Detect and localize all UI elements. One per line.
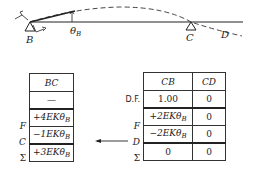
header-cb: CB bbox=[144, 73, 193, 91]
theta-b-label: θB bbox=[70, 26, 81, 39]
row-label-c: C bbox=[16, 137, 26, 147]
cell-c-bc: −1EKθB bbox=[30, 127, 74, 145]
row-label-sum: Σ bbox=[128, 153, 140, 163]
cell-f-cb: +2EKθB bbox=[144, 108, 193, 126]
cell-f-bc: +4EKθB bbox=[30, 109, 74, 127]
header-bc: BC bbox=[30, 74, 74, 92]
distribution-table-c: CB CD 1.00 0 +2EKθB 0 −2EKθB 0 0 0 bbox=[143, 72, 226, 161]
end-d-label: D bbox=[221, 30, 229, 40]
cell-f-cd: 0 bbox=[193, 108, 226, 126]
row-label-d: D bbox=[128, 137, 140, 147]
cell-d-cd: 0 bbox=[193, 126, 226, 144]
distribution-table-bc: BC — +4EKθB −1EKθB +3EKθB bbox=[29, 73, 74, 162]
carryover-arrow-icon bbox=[94, 137, 130, 145]
df-cd: 0 bbox=[193, 91, 226, 109]
df-cb: 1.00 bbox=[144, 91, 193, 109]
row-label-f: F bbox=[128, 121, 140, 131]
row-label-df: D.F. bbox=[112, 95, 140, 104]
cell-d-cb: −2EKθB bbox=[144, 126, 193, 144]
cell-sum-bc: +3EKθB bbox=[30, 144, 74, 162]
beam-diagram bbox=[0, 0, 254, 60]
row-label-f: F bbox=[16, 121, 26, 131]
cell-sum-cb: 0 bbox=[144, 143, 193, 161]
support-c-label: C bbox=[186, 33, 194, 43]
support-b-label: B bbox=[26, 35, 33, 45]
row-label-sum: Σ bbox=[16, 153, 26, 163]
header-cd: CD bbox=[193, 73, 226, 91]
tangent-line bbox=[30, 11, 75, 22]
cell-sum-cd: 0 bbox=[193, 143, 226, 161]
df-bc: — bbox=[30, 92, 74, 110]
